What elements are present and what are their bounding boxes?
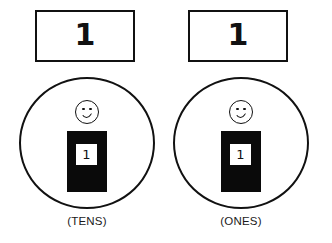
digit-card-ones-value: 1 <box>236 148 244 161</box>
person-group-ones[interactable]: 1 <box>173 77 309 209</box>
digit-card-ones: 1 <box>230 144 251 165</box>
digit-card-tens: 1 <box>76 144 97 165</box>
caption-ones: (ONES) <box>173 215 309 227</box>
black-torso-icon: 1 <box>67 131 107 192</box>
smiley-face-icon <box>229 100 253 124</box>
digit-box-tens[interactable]: 1 <box>35 10 135 62</box>
person-group-tens[interactable]: 1 <box>19 77 155 209</box>
smiley-mouth-icon <box>234 108 247 118</box>
digit-card-tens-value: 1 <box>82 148 90 161</box>
smiley-face-icon <box>75 100 99 124</box>
figure-canvas: 1 1 1 1 (TENS) (ON <box>0 0 332 243</box>
black-torso-icon: 1 <box>221 131 261 192</box>
digit-box-tens-value: 1 <box>75 20 96 50</box>
caption-tens: (TENS) <box>19 215 155 227</box>
digit-box-ones-value: 1 <box>228 20 249 50</box>
digit-box-ones[interactable]: 1 <box>188 10 288 62</box>
smiley-mouth-icon <box>80 108 93 118</box>
